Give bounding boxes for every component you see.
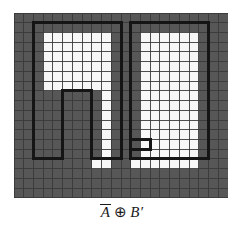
filled-cell xyxy=(63,71,73,81)
filled-cell xyxy=(140,91,150,101)
filled-cell xyxy=(160,139,170,149)
filled-cell xyxy=(170,42,180,52)
filled-cell xyxy=(102,91,112,101)
filled-cell xyxy=(63,52,73,62)
filled-cell xyxy=(53,42,63,52)
filled-cell xyxy=(72,52,82,62)
filled-cell xyxy=(140,42,150,52)
filled-cell xyxy=(53,71,63,81)
filled-cell xyxy=(160,81,170,91)
filled-cell xyxy=(102,101,112,111)
filled-cell xyxy=(82,42,92,52)
filled-cell xyxy=(102,110,112,120)
filled-cell xyxy=(82,32,92,42)
filled-cell xyxy=(92,42,102,52)
filled-cell xyxy=(170,101,180,111)
filled-cell xyxy=(160,110,170,120)
filled-cell xyxy=(150,52,160,62)
filled-cell xyxy=(150,71,160,81)
filled-cell xyxy=(43,42,53,52)
filled-cell xyxy=(160,120,170,130)
filled-cell xyxy=(92,32,102,42)
grid-panel xyxy=(14,13,228,198)
filled-cell xyxy=(179,101,189,111)
figure-root: A⊕B′ xyxy=(0,0,243,231)
filled-cell xyxy=(189,91,199,101)
filled-cell xyxy=(170,52,180,62)
filled-cell xyxy=(170,120,180,130)
filled-cell xyxy=(43,52,53,62)
filled-cell xyxy=(140,120,150,130)
filled-cell xyxy=(102,52,112,62)
filled-cell xyxy=(170,91,180,101)
filled-cell xyxy=(189,139,199,149)
filled-cell xyxy=(150,81,160,91)
filled-cell xyxy=(170,130,180,140)
filled-cell xyxy=(140,71,150,81)
filled-cell xyxy=(179,139,189,149)
filled-cell xyxy=(102,32,112,42)
filled-cell xyxy=(189,120,199,130)
filled-cell xyxy=(160,71,170,81)
filled-cell xyxy=(189,81,199,91)
filled-cell xyxy=(179,32,189,42)
filled-cell xyxy=(160,62,170,72)
filled-cell xyxy=(140,62,150,72)
filled-cell xyxy=(179,62,189,72)
filled-cell xyxy=(102,71,112,81)
filled-cell xyxy=(102,81,112,91)
filled-cell xyxy=(92,52,102,62)
filled-cell xyxy=(43,71,53,81)
filled-cell xyxy=(189,71,199,81)
filled-cell xyxy=(150,32,160,42)
filled-cell xyxy=(179,120,189,130)
grid-diagram xyxy=(14,13,228,198)
filled-cell xyxy=(179,81,189,91)
filled-cell xyxy=(170,62,180,72)
filled-cell xyxy=(140,110,150,120)
filled-cell xyxy=(43,32,53,42)
filled-cell xyxy=(53,52,63,62)
filled-cell xyxy=(160,101,170,111)
filled-cell xyxy=(140,81,150,91)
filled-cell xyxy=(150,62,160,72)
filled-cell xyxy=(189,101,199,111)
filled-cell xyxy=(72,42,82,52)
filled-cell xyxy=(72,32,82,42)
caption-operand-b: B xyxy=(130,204,139,220)
caption-operand-a: A xyxy=(100,204,111,221)
filled-cell xyxy=(102,62,112,72)
filled-cell xyxy=(170,81,180,91)
filled-cell xyxy=(160,52,170,62)
filled-cell xyxy=(82,52,92,62)
filled-cell xyxy=(102,130,112,140)
filled-cell xyxy=(92,71,102,81)
filled-cell xyxy=(160,91,170,101)
filled-cell xyxy=(170,139,180,149)
filled-cell xyxy=(140,32,150,42)
filled-cell xyxy=(140,52,150,62)
filled-cell xyxy=(179,130,189,140)
filled-cell xyxy=(179,110,189,120)
filled-cell xyxy=(53,32,63,42)
filled-cell xyxy=(170,71,180,81)
filled-cell xyxy=(189,42,199,52)
filled-cell xyxy=(102,139,112,149)
filled-cell xyxy=(150,110,160,120)
filled-cell xyxy=(92,62,102,72)
filled-cell xyxy=(179,42,189,52)
filled-cell xyxy=(102,42,112,52)
filled-cell xyxy=(63,62,73,72)
filled-cell xyxy=(189,130,199,140)
filled-cell xyxy=(170,110,180,120)
filled-cell xyxy=(189,62,199,72)
figure-caption: A⊕B′ xyxy=(0,203,243,221)
filled-cell xyxy=(150,120,160,130)
filled-cell xyxy=(102,120,112,130)
filled-cell xyxy=(82,71,92,81)
filled-cell xyxy=(160,32,170,42)
filled-cell xyxy=(53,62,63,72)
filled-cell xyxy=(150,101,160,111)
filled-cell xyxy=(72,62,82,72)
filled-cell xyxy=(63,32,73,42)
